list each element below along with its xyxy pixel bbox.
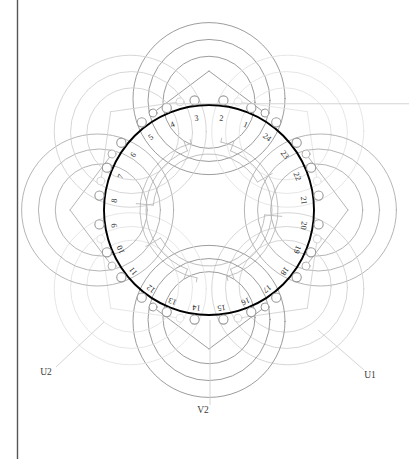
slot-number-5: 5 bbox=[147, 132, 156, 142]
slot-number-3: 3 bbox=[194, 114, 199, 123]
slot-number-12: 12 bbox=[145, 283, 157, 295]
slot-node-15[interactable] bbox=[219, 315, 228, 324]
coil-loop-arc bbox=[22, 134, 174, 286]
coil-loop-arc bbox=[258, 149, 380, 271]
coil-connection-node bbox=[234, 98, 242, 106]
slot-node-5[interactable] bbox=[137, 118, 146, 127]
coil-connection-node bbox=[108, 150, 116, 158]
coil-loop-arc bbox=[133, 23, 285, 175]
slot-number-19: 19 bbox=[292, 244, 303, 255]
slot-number-21: 21 bbox=[299, 196, 309, 205]
coil-connection-node bbox=[149, 303, 157, 311]
coil-connection-node bbox=[313, 235, 321, 243]
slot-number-16: 16 bbox=[240, 296, 251, 307]
slot-number-11: 11 bbox=[127, 265, 139, 277]
terminal-label-V2: V2 bbox=[197, 405, 209, 415]
slot-number-7: 7 bbox=[116, 173, 126, 180]
winding-diagram-svg: 123456789101112131415161718192021222324 … bbox=[0, 0, 409, 459]
coil-connection-node bbox=[261, 109, 269, 117]
slot-node-11[interactable] bbox=[117, 273, 126, 282]
slot-node-4[interactable] bbox=[162, 103, 171, 112]
coil-connection-node bbox=[234, 314, 242, 322]
inner-coil-radial bbox=[221, 138, 222, 142]
coil-lead-stub bbox=[306, 210, 348, 266]
terminal-lead-U1 bbox=[318, 330, 364, 370]
slot-node-10[interactable] bbox=[102, 248, 111, 257]
inner-coil-radial bbox=[227, 277, 228, 281]
slot-node-23[interactable] bbox=[292, 138, 301, 147]
slot-node-21[interactable] bbox=[314, 191, 323, 200]
slot-number-15: 15 bbox=[217, 303, 226, 313]
slot-node-18[interactable] bbox=[292, 273, 301, 282]
winding-diagram-root: 123456789101112131415161718192021222324 … bbox=[0, 0, 409, 459]
coil-lead-stub bbox=[306, 154, 348, 210]
coil-connection-node bbox=[313, 177, 321, 185]
coil-connection-node bbox=[97, 177, 105, 185]
slot-number-4: 4 bbox=[169, 120, 176, 130]
coil-loop-arc bbox=[133, 245, 285, 397]
slot-number-18: 18 bbox=[279, 265, 291, 277]
slot-number-6: 6 bbox=[128, 151, 138, 160]
coil-loop-arc bbox=[38, 149, 160, 271]
coil-lead-stub bbox=[209, 71, 265, 113]
slot-number-9: 9 bbox=[110, 223, 119, 228]
terminal-label-U1: U1 bbox=[364, 370, 376, 380]
slot-number-22: 22 bbox=[292, 171, 303, 182]
slot-node-6[interactable] bbox=[117, 138, 126, 147]
outer-coil-groups bbox=[22, 23, 397, 398]
slot-node-19[interactable] bbox=[306, 248, 315, 257]
coil-lead-stub bbox=[70, 210, 112, 266]
slot-node-12[interactable] bbox=[137, 293, 146, 302]
coil-connection-node bbox=[176, 98, 184, 106]
slot-node-24[interactable] bbox=[272, 118, 281, 127]
slot-node-17[interactable] bbox=[272, 293, 281, 302]
slot-number-1: 1 bbox=[242, 120, 249, 130]
slot-number-23: 23 bbox=[279, 149, 291, 161]
slot-node-20[interactable] bbox=[314, 220, 323, 229]
terminal-lead-U2 bbox=[56, 322, 104, 367]
coil-lead-stub bbox=[70, 154, 112, 210]
slot-number-2: 2 bbox=[219, 114, 224, 123]
slot-node-group bbox=[95, 96, 323, 324]
inner-coil-radial bbox=[196, 278, 197, 282]
slot-number-13: 13 bbox=[167, 296, 178, 307]
coil-connection-node bbox=[302, 150, 310, 158]
slot-number-10: 10 bbox=[115, 244, 126, 255]
slot-node-16[interactable] bbox=[247, 307, 256, 316]
slot-number-8: 8 bbox=[110, 198, 119, 203]
slot-number-17: 17 bbox=[261, 283, 273, 295]
slot-node-22[interactable] bbox=[306, 163, 315, 172]
coil-connection-node bbox=[176, 314, 184, 322]
coil-loop-arc bbox=[244, 134, 396, 286]
coil-loop-arc bbox=[148, 259, 270, 381]
coil-connection-node bbox=[149, 109, 157, 117]
slot-node-13[interactable] bbox=[162, 307, 171, 316]
terminal-label-U2: U2 bbox=[40, 367, 52, 377]
slot-number-20: 20 bbox=[299, 221, 309, 230]
coil-connection-node bbox=[97, 235, 105, 243]
coil-loop-arc bbox=[212, 213, 364, 365]
coil-lead-stub bbox=[153, 71, 209, 113]
slot-node-1[interactable] bbox=[247, 103, 256, 112]
coil-connection-node bbox=[108, 262, 116, 270]
slot-node-9[interactable] bbox=[95, 220, 104, 229]
slot-node-7[interactable] bbox=[102, 163, 111, 172]
inner-coil-arcs bbox=[136, 138, 281, 282]
inner-coil-radial bbox=[190, 139, 191, 143]
slot-node-14[interactable] bbox=[190, 315, 199, 324]
coil-connection-node bbox=[302, 262, 310, 270]
slot-number-14: 14 bbox=[192, 303, 201, 313]
coil-loop-arc bbox=[212, 55, 364, 207]
coil-loop-arc bbox=[148, 39, 270, 161]
stator-outer-ring bbox=[104, 105, 314, 315]
coil-loop-arc bbox=[54, 213, 206, 365]
coil-lead-stub bbox=[209, 307, 265, 349]
coil-connection-node bbox=[261, 303, 269, 311]
coil-loop-arc bbox=[54, 55, 206, 207]
slot-node-8[interactable] bbox=[95, 191, 104, 200]
